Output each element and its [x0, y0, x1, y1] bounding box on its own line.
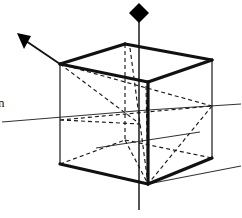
figure-root: n — [0, 0, 242, 218]
cube-diagram-svg — [0, 0, 242, 218]
axis-label-left: n — [0, 96, 5, 109]
figure-background — [0, 0, 242, 218]
